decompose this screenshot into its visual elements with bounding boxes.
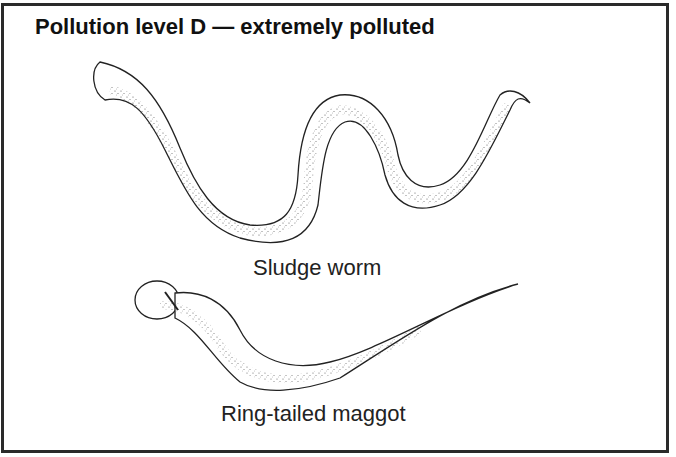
illustration bbox=[0, 0, 676, 457]
sludge-worm-label: Sludge worm bbox=[253, 255, 381, 281]
ring-tailed-maggot-drawing bbox=[135, 281, 518, 390]
ring-tailed-maggot-label: Ring-tailed maggot bbox=[221, 401, 406, 427]
sludge-worm-drawing bbox=[94, 62, 530, 243]
